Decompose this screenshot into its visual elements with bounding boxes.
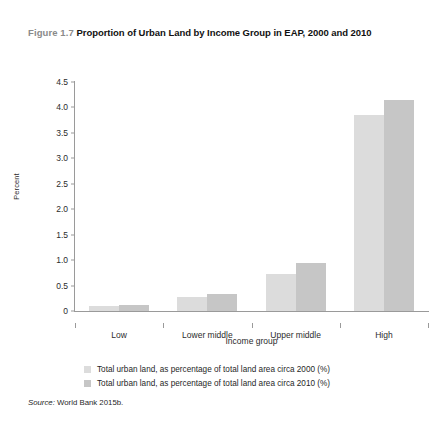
legend-swatch-2010-icon xyxy=(84,380,91,387)
bar-group xyxy=(163,82,251,311)
bar-pair xyxy=(340,82,428,311)
figure-number: Figure 1.7 xyxy=(28,27,74,38)
plot-area: 00.51.01.52.02.53.03.54.04.5 LowLower mi… xyxy=(75,82,428,311)
bar xyxy=(207,294,237,311)
bar xyxy=(384,100,414,311)
bar xyxy=(266,274,296,311)
legend-label-2010: Total urban land, as percentage of total… xyxy=(97,379,330,388)
bar-pair xyxy=(163,82,251,311)
x-axis-tick-mark xyxy=(252,323,253,328)
legend-item: Total urban land, as percentage of total… xyxy=(84,377,330,389)
source-label: Source: xyxy=(28,398,55,407)
x-axis-tick-mark xyxy=(75,323,76,328)
legend-item: Total urban land, as percentage of total… xyxy=(84,363,330,375)
figure-title: Proportion of Urban Land by Income Group… xyxy=(77,27,372,38)
legend-label-2000: Total urban land, as percentage of total… xyxy=(97,365,330,374)
bar xyxy=(296,263,326,311)
bar xyxy=(119,305,149,311)
x-axis-tick-mark xyxy=(340,323,341,328)
y-axis-title: Percent xyxy=(12,157,21,217)
figure-heading: Figure 1.7 Proportion of Urban Land by I… xyxy=(28,26,428,39)
chart-legend: Total urban land, as percentage of total… xyxy=(84,363,330,391)
source-note: Source: World Bank 2015b. xyxy=(28,398,123,407)
bar-pair xyxy=(75,82,163,311)
x-axis-title: Income group xyxy=(75,336,428,346)
legend-swatch-2000-icon xyxy=(84,366,91,373)
source-text: World Bank 2015b. xyxy=(57,398,123,407)
bar-group xyxy=(340,82,428,311)
bar-pair xyxy=(252,82,340,311)
bar-group xyxy=(252,82,340,311)
bar xyxy=(177,297,207,311)
x-axis-tick-mark xyxy=(428,323,429,328)
bar xyxy=(89,306,119,311)
x-axis-line xyxy=(74,311,429,312)
bar-group xyxy=(75,82,163,311)
x-axis-tick-mark xyxy=(163,323,164,328)
bar xyxy=(354,115,384,311)
chart-container: Percent 00.51.01.52.02.53.03.54.04.5 Low… xyxy=(0,70,444,330)
